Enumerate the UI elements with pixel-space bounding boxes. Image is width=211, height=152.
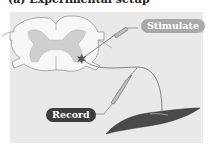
record-label: Record [46, 108, 96, 122]
stimulate-label: Stimulate [141, 19, 205, 33]
spinal-cord-cross-section-icon [2, 16, 112, 71]
recording-electrode-icon [88, 68, 137, 114]
muscle-icon [106, 108, 200, 134]
